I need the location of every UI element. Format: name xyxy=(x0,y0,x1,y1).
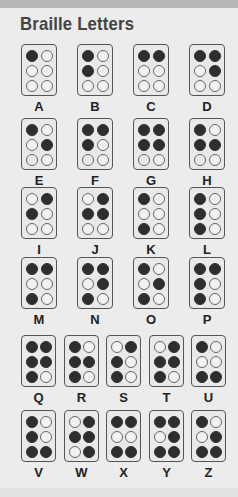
flat-dot-icon xyxy=(125,356,137,368)
flat-dot-icon xyxy=(41,208,53,220)
flat-dot-icon xyxy=(168,371,180,383)
flat-dot-icon xyxy=(138,154,150,166)
raised-dot-icon xyxy=(97,208,109,220)
raised-dot-icon xyxy=(210,371,222,383)
flat-dot-icon xyxy=(153,263,165,275)
raised-dot-icon xyxy=(26,371,38,383)
braille-letter-label: W xyxy=(64,465,99,480)
flat-dot-icon xyxy=(97,50,109,62)
braille-letter-label: G xyxy=(133,173,169,188)
raised-dot-icon xyxy=(41,139,53,151)
flat-dot-icon xyxy=(209,208,221,220)
flat-dot-icon xyxy=(209,293,221,305)
flat-dot-icon xyxy=(125,371,137,383)
raised-dot-icon xyxy=(168,416,180,428)
flat-dot-icon xyxy=(138,208,150,220)
braille-letter-label: B xyxy=(77,99,113,114)
flat-dot-icon xyxy=(209,154,221,166)
raised-dot-icon xyxy=(26,356,38,368)
flat-dot-icon xyxy=(97,223,109,235)
flat-dot-icon xyxy=(194,65,206,77)
flat-dot-icon xyxy=(209,278,221,290)
flat-dot-icon xyxy=(111,431,123,443)
raised-dot-icon xyxy=(82,124,94,136)
flat-dot-icon xyxy=(82,80,94,92)
raised-dot-icon xyxy=(194,278,206,290)
flat-dot-icon xyxy=(83,341,95,353)
page-title: Braille Letters xyxy=(20,13,134,35)
braille-letter-label: E xyxy=(21,173,57,188)
raised-dot-icon xyxy=(82,293,94,305)
raised-dot-icon xyxy=(168,431,180,443)
flat-dot-icon xyxy=(26,80,38,92)
raised-dot-icon xyxy=(69,431,81,443)
flat-dot-icon xyxy=(41,50,53,62)
braille-letter-label: D xyxy=(189,99,225,114)
raised-dot-icon xyxy=(194,193,206,205)
flat-dot-icon xyxy=(40,416,52,428)
braille-letter-label: Q xyxy=(21,390,56,405)
flat-dot-icon xyxy=(41,65,53,77)
raised-dot-icon xyxy=(111,446,123,458)
braille-letter-label: U xyxy=(191,390,226,405)
braille-letter-label: M xyxy=(21,312,57,327)
flat-dot-icon xyxy=(69,416,81,428)
raised-dot-icon xyxy=(83,416,95,428)
flat-dot-icon xyxy=(153,154,165,166)
raised-dot-icon xyxy=(26,263,38,275)
raised-dot-icon xyxy=(26,446,38,458)
flat-dot-icon xyxy=(138,80,150,92)
raised-dot-icon xyxy=(138,293,150,305)
flat-dot-icon xyxy=(196,356,208,368)
raised-dot-icon xyxy=(138,50,150,62)
raised-dot-icon xyxy=(83,356,95,368)
raised-dot-icon xyxy=(26,124,38,136)
braille-letter-label: F xyxy=(77,173,113,188)
raised-dot-icon xyxy=(26,208,38,220)
raised-dot-icon xyxy=(154,446,166,458)
flat-dot-icon xyxy=(153,293,165,305)
flat-dot-icon xyxy=(82,223,94,235)
flat-dot-icon xyxy=(138,278,150,290)
flat-dot-icon xyxy=(40,431,52,443)
raised-dot-icon xyxy=(125,446,137,458)
raised-dot-icon xyxy=(153,124,165,136)
flat-dot-icon xyxy=(97,139,109,151)
flat-dot-icon xyxy=(97,293,109,305)
flat-dot-icon xyxy=(26,139,38,151)
flat-dot-icon xyxy=(41,154,53,166)
raised-dot-icon xyxy=(153,278,165,290)
raised-dot-icon xyxy=(168,341,180,353)
raised-dot-icon xyxy=(138,263,150,275)
flat-dot-icon xyxy=(69,446,81,458)
flat-dot-icon xyxy=(97,80,109,92)
braille-letter-label: K xyxy=(133,242,169,257)
flat-dot-icon xyxy=(26,278,38,290)
bottom-band xyxy=(0,488,238,497)
flat-dot-icon xyxy=(209,80,221,92)
raised-dot-icon xyxy=(209,50,221,62)
raised-dot-icon xyxy=(138,193,150,205)
raised-dot-icon xyxy=(111,371,123,383)
flat-dot-icon xyxy=(194,154,206,166)
raised-dot-icon xyxy=(138,139,150,151)
flat-dot-icon xyxy=(138,65,150,77)
braille-letter-label: P xyxy=(189,312,225,327)
raised-dot-icon xyxy=(154,371,166,383)
raised-dot-icon xyxy=(40,446,52,458)
raised-dot-icon xyxy=(154,356,166,368)
raised-dot-icon xyxy=(168,356,180,368)
braille-letter-label: Y xyxy=(149,465,184,480)
braille-letter-label: C xyxy=(133,99,169,114)
raised-dot-icon xyxy=(194,223,206,235)
raised-dot-icon xyxy=(125,341,137,353)
raised-dot-icon xyxy=(125,416,137,428)
flat-dot-icon xyxy=(154,431,166,443)
flat-dot-icon xyxy=(41,124,53,136)
raised-dot-icon xyxy=(194,124,206,136)
flat-dot-icon xyxy=(153,208,165,220)
raised-dot-icon xyxy=(97,278,109,290)
raised-dot-icon xyxy=(26,50,38,62)
flat-dot-icon xyxy=(209,193,221,205)
braille-letter-label: L xyxy=(189,242,225,257)
